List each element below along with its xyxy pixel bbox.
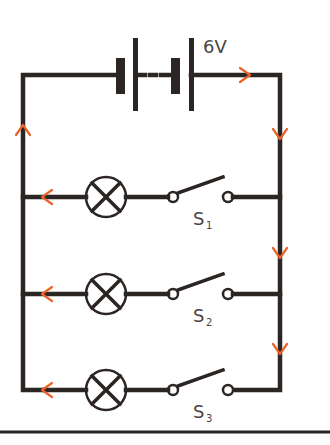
- main-wires: [23, 75, 280, 390]
- battery-cell-2-negative-plate: [171, 58, 180, 94]
- branch-3: S 3: [45, 370, 233, 424]
- right-wire: [191, 75, 280, 390]
- switch-s3[interactable]: [168, 370, 233, 395]
- lamp-icon: [86, 370, 126, 410]
- switch-s3-label: S: [193, 401, 204, 422]
- branch-1: S 1: [23, 177, 280, 231]
- battery-cell-2-positive-plate: [189, 38, 194, 111]
- battery-cell-1-negative-plate: [116, 58, 125, 94]
- circuit-diagram: 6V S 1 S 2: [0, 0, 330, 445]
- branch-2: S 2: [23, 274, 280, 328]
- switch-s2-label: S: [193, 305, 204, 326]
- switch-s1-subscript: 1: [206, 220, 212, 231]
- lamp-icon: [86, 274, 126, 314]
- switch-s2-subscript: 2: [206, 317, 212, 328]
- switch-s1-label: S: [193, 208, 204, 229]
- switch-s1[interactable]: [168, 177, 233, 202]
- left-wire: [23, 75, 118, 390]
- lamp-icon: [86, 177, 126, 217]
- switch-s3-subscript: 3: [206, 413, 212, 424]
- current-arrows: [16, 68, 287, 397]
- battery-voltage-label: 6V: [203, 36, 227, 57]
- switch-s2[interactable]: [168, 274, 233, 299]
